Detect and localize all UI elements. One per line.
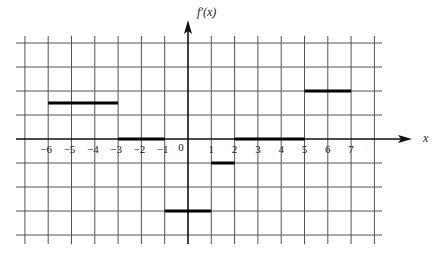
chart-plot-area [0, 0, 446, 260]
x-tick-label: 2 [232, 143, 238, 155]
x-tick-label: −6 [40, 143, 52, 155]
x-tick-label: −1 [157, 143, 169, 155]
x-tick-label: 7 [348, 143, 354, 155]
x-tick-label: 6 [325, 143, 331, 155]
x-tick-label: −3 [110, 143, 122, 155]
x-tick-label: −4 [87, 143, 99, 155]
x-tick-label: −5 [64, 143, 76, 155]
x-tick-label: 3 [255, 143, 261, 155]
y-axis-label: f′(x) [197, 5, 216, 20]
x-axis-label: x [423, 131, 428, 146]
x-tick-label: 4 [278, 143, 284, 155]
x-tick-label: 5 [302, 143, 308, 155]
x-tick-label: −2 [134, 143, 146, 155]
x-tick-label: 0 [178, 141, 184, 153]
x-tick-label: 1 [209, 143, 215, 155]
